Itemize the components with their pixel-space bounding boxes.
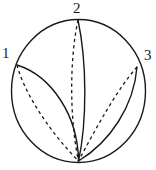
arc-from-point-2-solid (78, 20, 85, 161)
disk-boundary-circle (12, 20, 146, 163)
figure-root: 1 2 3 (0, 0, 156, 170)
arc-from-point-3-solid (79, 67, 138, 161)
vertex-label-3: 3 (144, 48, 152, 63)
vertex-label-2: 2 (73, 1, 81, 16)
arc-from-point-1-solid (17, 65, 79, 161)
arc-from-point-2-dashed (72, 20, 79, 161)
arc-from-point-3-dashed (79, 67, 138, 161)
arc-from-point-1-dashed (17, 65, 79, 161)
disk-diagram (0, 0, 156, 170)
vertex-label-1: 1 (2, 46, 10, 61)
